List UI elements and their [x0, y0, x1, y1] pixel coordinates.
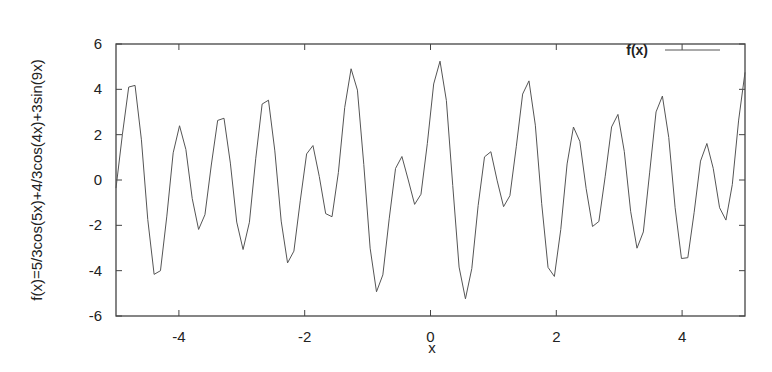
x-tick-label: 2	[552, 328, 560, 345]
x-axis-label: x	[428, 339, 436, 356]
x-tick-label: -2	[298, 328, 311, 345]
y-tick-label: 4	[94, 80, 102, 97]
series-line-fx	[116, 61, 745, 299]
plot-frame	[116, 44, 745, 316]
legend-label: f(x)	[626, 42, 648, 58]
y-tick-label: 2	[94, 126, 102, 143]
y-tick-label: 0	[94, 171, 102, 188]
y-tick-label: -6	[89, 307, 102, 324]
y-tick-label: 6	[94, 35, 102, 52]
x-axis-ticks: -4-2024	[172, 44, 686, 345]
y-axis-ticks: -6-4-20246	[89, 35, 745, 324]
line-chart: -6-4-20246 -4-2024 f(x) x f(x)=5/3cos(5x…	[0, 0, 772, 372]
x-tick-label: 4	[678, 328, 686, 345]
y-tick-label: -4	[89, 262, 102, 279]
y-axis-label: f(x)=5/3cos(5x)+4/3cos(4x)+3sin(9x)	[28, 59, 45, 300]
x-tick-label: -4	[172, 328, 185, 345]
y-tick-label: -2	[89, 216, 102, 233]
